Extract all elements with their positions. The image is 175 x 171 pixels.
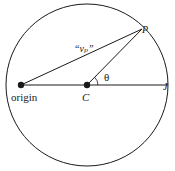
origin-to-p-line: [21, 29, 142, 85]
segment-label: “vₚ”: [74, 43, 94, 54]
center-dot: [84, 82, 90, 88]
center-label: C: [82, 91, 90, 103]
origin-label: origin: [11, 91, 38, 103]
center-to-p-line: [87, 29, 142, 85]
j-label: J: [163, 81, 168, 92]
diagram-canvas: origin C P J θ “vₚ”: [0, 0, 175, 171]
angle-arc: [95, 77, 98, 85]
p-label: P: [141, 24, 148, 35]
origin-dot: [18, 82, 24, 88]
theta-label: θ: [104, 71, 109, 83]
